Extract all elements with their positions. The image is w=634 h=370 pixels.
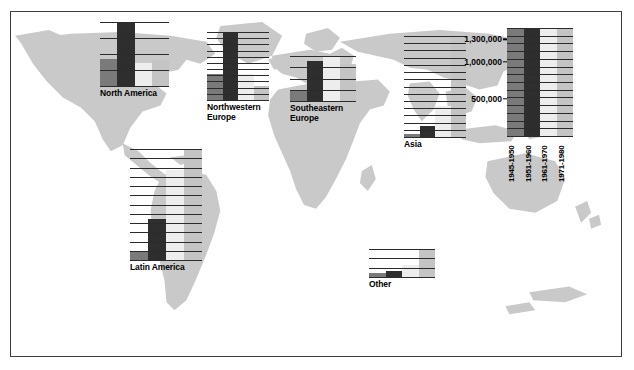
gridline xyxy=(507,67,573,68)
gridline xyxy=(130,260,202,261)
gridline xyxy=(507,36,573,37)
legend-plot: 1,300,0001,000,000500,000 xyxy=(507,28,573,136)
gridline xyxy=(207,32,269,33)
figure-frame: North America Northwestern Europe Southe… xyxy=(10,11,622,357)
gridline xyxy=(130,158,202,159)
gridline xyxy=(130,232,202,233)
plot-area xyxy=(207,32,269,100)
y-axis-tick-label: 1,000,000 xyxy=(464,57,502,67)
gridline xyxy=(100,54,169,55)
gridline xyxy=(507,43,573,44)
panel-other: Other xyxy=(369,249,435,289)
gridline xyxy=(130,251,202,252)
plot-area xyxy=(100,22,169,86)
bar-1961-1970 xyxy=(435,106,451,137)
panel-asia: Asia xyxy=(404,36,466,149)
gridline xyxy=(207,38,269,39)
gridline xyxy=(207,57,269,58)
gridline xyxy=(404,123,466,124)
legend-period-labels: 1945-19501951-19601961-19701971-1980 xyxy=(507,138,573,182)
gridline xyxy=(507,74,573,75)
bar-1951-1960 xyxy=(420,126,436,137)
gridline xyxy=(507,51,573,52)
plot-area xyxy=(369,249,435,277)
gridline xyxy=(130,186,202,187)
gridline xyxy=(404,108,466,109)
gridline xyxy=(404,36,466,37)
gridline xyxy=(507,105,573,106)
bar-1971-1980 xyxy=(152,60,169,86)
gridline xyxy=(130,242,202,243)
gridline xyxy=(404,72,466,73)
y-axis-tick-label: 500,000 xyxy=(471,94,502,104)
gridline xyxy=(369,277,435,278)
gridline xyxy=(290,79,356,80)
bar-1961-1970 xyxy=(135,63,152,86)
gridline xyxy=(207,69,269,70)
gridline xyxy=(100,70,169,71)
gridline xyxy=(369,258,435,259)
bar-1971-1980 xyxy=(419,249,436,277)
gridline xyxy=(100,86,169,87)
gridline xyxy=(404,65,466,66)
bar-group xyxy=(207,32,269,100)
gridline xyxy=(404,58,466,59)
gridline xyxy=(404,115,466,116)
panel-label: Asia xyxy=(404,139,466,149)
gridline xyxy=(507,136,573,137)
gridline xyxy=(290,101,356,102)
bar-1951-1960 xyxy=(148,219,166,260)
gridline xyxy=(404,130,466,131)
bar-1945-1950 xyxy=(100,59,117,86)
bar-1951-1960 xyxy=(223,32,239,100)
gridline xyxy=(130,205,202,206)
scale-legend: 1,300,0001,000,000500,000 1945-19501951-… xyxy=(507,28,573,136)
gridline xyxy=(100,38,169,39)
gridline xyxy=(507,128,573,129)
plot-area xyxy=(290,56,356,101)
bar-1961-1970 xyxy=(402,265,419,277)
gridline xyxy=(290,56,356,57)
gridline xyxy=(207,75,269,76)
gridline xyxy=(130,195,202,196)
gridline xyxy=(207,63,269,64)
gridline xyxy=(207,44,269,45)
bar-group xyxy=(369,249,435,277)
gridline xyxy=(207,88,269,89)
gridline xyxy=(130,214,202,215)
gridline xyxy=(207,100,269,101)
gridline xyxy=(507,28,573,29)
gridline xyxy=(507,113,573,114)
gridline xyxy=(404,50,466,51)
gridline xyxy=(404,87,466,88)
panel-southeastern-europe: Southeastern Europe xyxy=(290,56,356,123)
gridline xyxy=(404,137,466,138)
gridline xyxy=(100,22,169,23)
gridline xyxy=(369,268,435,269)
legend-period-label: 1961-1970 xyxy=(540,138,557,182)
panel-latin-america: Latin America xyxy=(130,149,202,272)
y-axis-tick-mark xyxy=(503,98,507,99)
legend-period-label: 1951-1960 xyxy=(524,138,541,182)
y-axis-tick-label: 1,300,000 xyxy=(464,34,502,44)
legend-period-label: 1971-1980 xyxy=(557,138,574,182)
gridline xyxy=(207,81,269,82)
gridline xyxy=(290,90,356,91)
panel-north-america: North America xyxy=(100,22,169,98)
gridline xyxy=(404,94,466,95)
gridline xyxy=(507,82,573,83)
bar-1945-1950 xyxy=(290,90,307,101)
panel-label: Latin America xyxy=(130,262,202,272)
bar-1971-1980 xyxy=(340,64,357,101)
plot-area xyxy=(130,149,202,260)
y-axis-tick-mark xyxy=(503,38,507,39)
plot-area xyxy=(404,36,466,137)
gridline xyxy=(507,97,573,98)
gridline xyxy=(290,67,356,68)
panel-label: North America xyxy=(100,88,169,98)
panel-label: Southeastern Europe xyxy=(290,103,356,123)
gridline xyxy=(507,90,573,91)
gridline xyxy=(369,249,435,250)
legend-period-label: 1945-1950 xyxy=(507,138,524,182)
gridline xyxy=(130,149,202,150)
